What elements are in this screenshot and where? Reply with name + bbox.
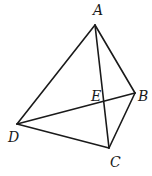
segment-BC bbox=[109, 93, 135, 148]
label-E: E bbox=[90, 88, 101, 104]
segment-AD bbox=[17, 25, 95, 124]
segment-AC bbox=[95, 25, 109, 148]
label-B: B bbox=[137, 88, 148, 104]
label-C: C bbox=[110, 154, 121, 170]
label-D: D bbox=[7, 129, 19, 145]
geometry-diagram: A B C D E bbox=[0, 0, 152, 176]
label-A: A bbox=[91, 2, 103, 18]
segment-DC bbox=[17, 124, 109, 148]
diagram-svg: A B C D E bbox=[0, 0, 152, 176]
segment-DB bbox=[17, 93, 135, 124]
